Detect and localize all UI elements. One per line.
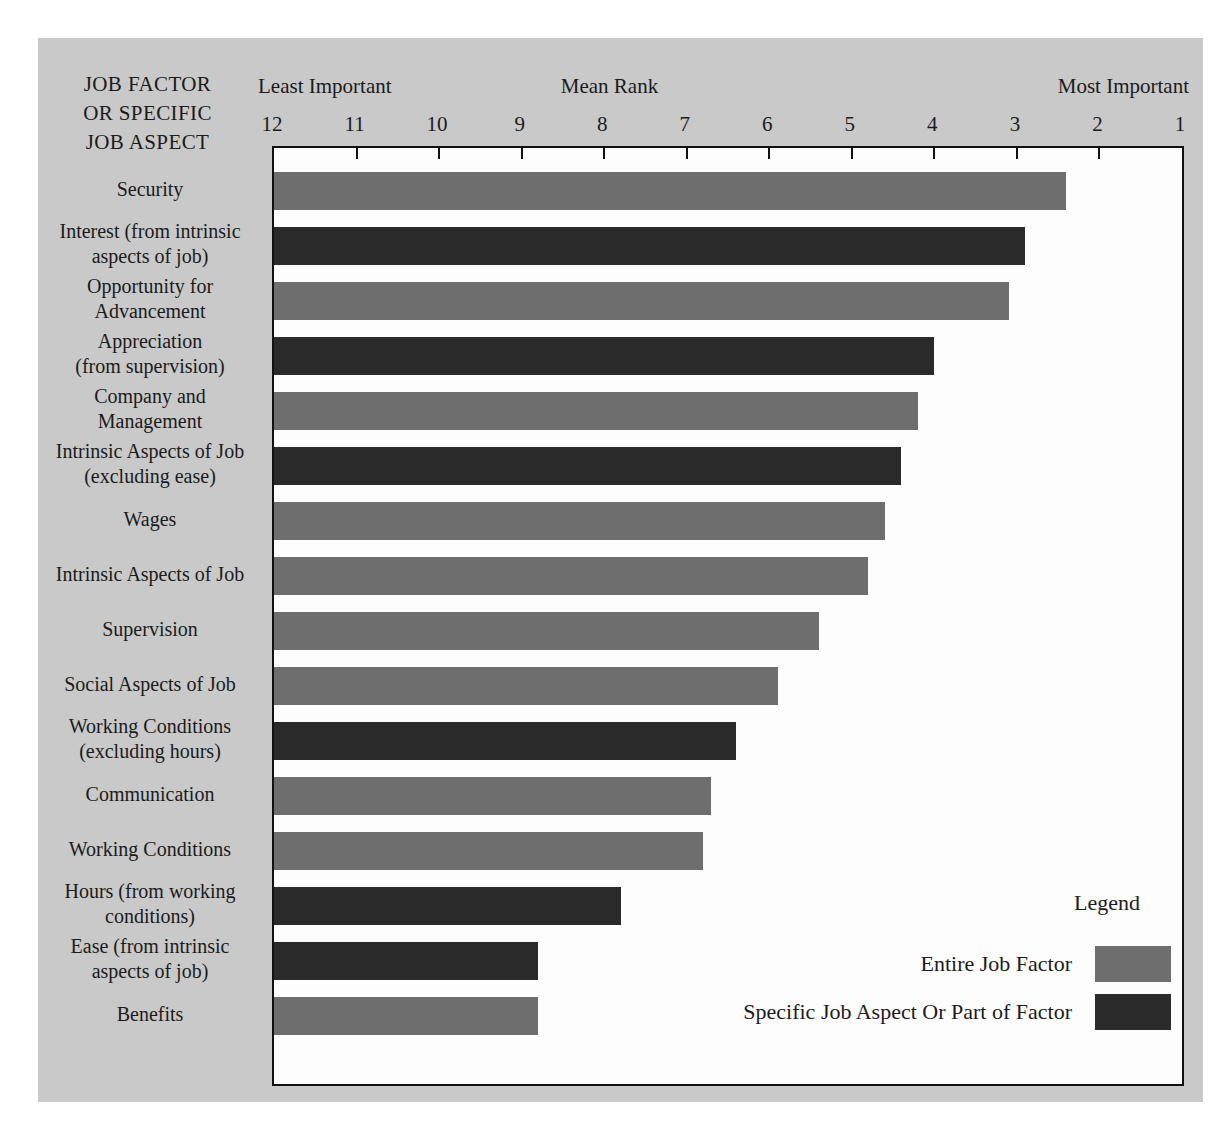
legend-entry-label: Specific Job Aspect Or Part of Factor (640, 990, 1072, 1034)
category-label: Appreciation(from supervision) (30, 329, 270, 379)
bar (274, 392, 918, 430)
x-tick-mark-4 (933, 148, 935, 159)
category-label: Intrinsic Aspects of Job (30, 562, 270, 587)
bar (274, 777, 711, 815)
bar (274, 612, 819, 650)
category-label: Intrinsic Aspects of Job(excluding ease) (30, 439, 270, 489)
category-label: Hours (from workingconditions) (30, 879, 270, 929)
category-label: Wages (30, 507, 270, 532)
bar (274, 447, 901, 485)
bar (274, 502, 885, 540)
category-label-line: Benefits (30, 1002, 270, 1027)
bar (274, 337, 934, 375)
x-tick-label-4: 4 (927, 112, 938, 137)
category-label-line: Supervision (30, 617, 270, 642)
category-label-line: (excluding ease) (30, 464, 270, 489)
category-label-line: Opportunity for (30, 274, 270, 299)
legend-entry: Entire Job Factor (640, 942, 1170, 986)
category-label-line: (from supervision) (30, 354, 270, 379)
bar (274, 722, 736, 760)
category-label-line: Working Conditions (30, 714, 270, 739)
category-label: Working Conditions (30, 837, 270, 862)
category-label: Communication (30, 782, 270, 807)
category-label-line: Wages (30, 507, 270, 532)
category-label-line: Advancement (30, 299, 270, 324)
category-label: Security (30, 177, 270, 202)
axis-title: Mean Rank (0, 74, 1231, 99)
x-tick-label-12: 12 (262, 112, 283, 137)
category-label-line: Security (30, 177, 270, 202)
x-tick-mark-11 (356, 148, 358, 159)
legend-entry: Specific Job Aspect Or Part of Factor (640, 990, 1170, 1034)
bar (274, 667, 778, 705)
x-tick-label-8: 8 (597, 112, 608, 137)
category-label-line: Intrinsic Aspects of Job (30, 562, 270, 587)
x-tick-mark-3 (1016, 148, 1018, 159)
category-label: Ease (from intrinsicaspects of job) (30, 934, 270, 984)
legend-entry-label: Entire Job Factor (640, 942, 1072, 986)
bar (274, 172, 1066, 210)
category-label: Interest (from intrinsicaspects of job) (30, 219, 270, 269)
category-label: Supervision (30, 617, 270, 642)
category-label: Social Aspects of Job (30, 672, 270, 697)
bar (274, 557, 868, 595)
x-tick-label-3: 3 (1010, 112, 1021, 137)
x-tick-mark-7 (686, 148, 688, 159)
bar (274, 832, 703, 870)
x-tick-label-11: 11 (344, 112, 364, 137)
category-label-line: Communication (30, 782, 270, 807)
category-label: Benefits (30, 1002, 270, 1027)
x-tick-mark-6 (768, 148, 770, 159)
category-label-line: Interest (from intrinsic (30, 219, 270, 244)
legend-swatch-factor (1095, 946, 1171, 982)
category-label: Company andManagement (30, 384, 270, 434)
bar (274, 282, 1009, 320)
category-label-line: Working Conditions (30, 837, 270, 862)
category-label-line: aspects of job) (30, 959, 270, 984)
bar (274, 942, 538, 980)
category-label-line: aspects of job) (30, 244, 270, 269)
category-label: Working Conditions(excluding hours) (30, 714, 270, 764)
x-tick-mark-5 (851, 148, 853, 159)
most-important-label: Most Important (1058, 74, 1189, 99)
legend: Legend Entire Job FactorSpecific Job Asp… (640, 890, 1170, 1040)
x-axis-tick-labels: 121110987654321 (0, 112, 1231, 138)
x-tick-mark-2 (1098, 148, 1100, 159)
category-label-line: Appreciation (30, 329, 270, 354)
category-label: Opportunity forAdvancement (30, 274, 270, 324)
category-label-line: Management (30, 409, 270, 434)
x-tick-label-7: 7 (679, 112, 690, 137)
bar (274, 997, 538, 1035)
category-label-line: Company and (30, 384, 270, 409)
bar (274, 227, 1025, 265)
category-label-line: (excluding hours) (30, 739, 270, 764)
x-tick-label-1: 1 (1175, 112, 1186, 137)
x-tick-label-5: 5 (845, 112, 856, 137)
bar (274, 887, 621, 925)
category-label-line: Social Aspects of Job (30, 672, 270, 697)
x-tick-label-9: 9 (514, 112, 525, 137)
x-tick-label-10: 10 (427, 112, 448, 137)
chart-figure: JOB FACTOR OR SPECIFIC JOB ASPECT Least … (0, 0, 1231, 1130)
category-label-line: Intrinsic Aspects of Job (30, 439, 270, 464)
category-label-line: conditions) (30, 904, 270, 929)
category-labels: SecurityInterest (from intrinsicaspects … (24, 146, 270, 1082)
x-tick-mark-9 (521, 148, 523, 159)
legend-title: Legend (640, 890, 1140, 916)
category-label-line: Hours (from working (30, 879, 270, 904)
x-tick-mark-10 (438, 148, 440, 159)
axis-title-text: Mean Rank (561, 74, 658, 98)
x-tick-label-2: 2 (1092, 112, 1103, 137)
x-tick-mark-8 (603, 148, 605, 159)
category-label-line: Ease (from intrinsic (30, 934, 270, 959)
x-tick-label-6: 6 (762, 112, 773, 137)
legend-swatch-aspect (1095, 994, 1171, 1030)
